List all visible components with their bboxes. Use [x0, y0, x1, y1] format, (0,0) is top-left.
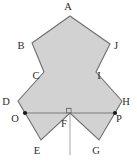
- vertex-label-f: F: [61, 118, 67, 129]
- vertex-label-d: D: [2, 96, 10, 107]
- point-dot-o: [23, 111, 27, 115]
- vertex-label-b: B: [17, 40, 24, 51]
- point-label-p: P: [116, 113, 122, 124]
- vertex-label-i: I: [97, 70, 101, 81]
- vertex-label-a: A: [64, 1, 72, 12]
- polygon-diagram: A B C D E F G H I J O P: [0, 0, 137, 163]
- point-label-o: O: [11, 113, 19, 124]
- geometry-figure-canvas: A B C D E F G H I J O P: [0, 0, 137, 163]
- vertex-label-h: H: [122, 96, 130, 107]
- vertex-label-e: E: [34, 145, 40, 156]
- vertex-label-g: G: [92, 145, 100, 156]
- vertex-label-c: C: [32, 70, 39, 81]
- vertex-label-j: J: [114, 40, 118, 51]
